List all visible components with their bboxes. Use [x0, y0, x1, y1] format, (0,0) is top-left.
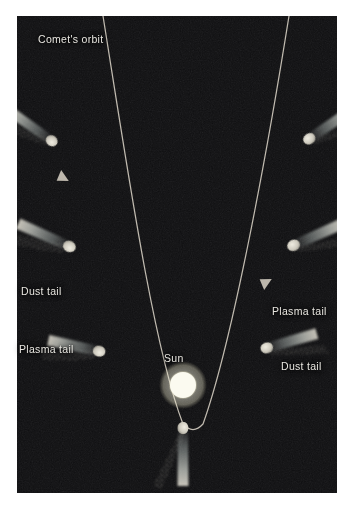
comet-upper-left: [17, 103, 60, 160]
comet-orbit-figure: Comet's orbit Dust tail Plasma tail Plas…: [0, 0, 352, 513]
comet-perihelion: [153, 422, 189, 490]
comet-mid-left: [17, 217, 78, 269]
comet-mid-right: [285, 216, 337, 270]
inbound-arrow-icon: [55, 169, 69, 183]
outbound-arrow-icon: [258, 277, 272, 291]
comet-upper-right: [301, 102, 337, 162]
comet-lower-right: [259, 327, 329, 371]
starfield-panel: [17, 16, 337, 493]
comet-lower-left: [40, 334, 106, 372]
plasma-tail: [177, 430, 188, 486]
comet-nucleus: [177, 422, 188, 434]
orbit-scene: [17, 16, 337, 493]
sun-body: [159, 361, 207, 409]
